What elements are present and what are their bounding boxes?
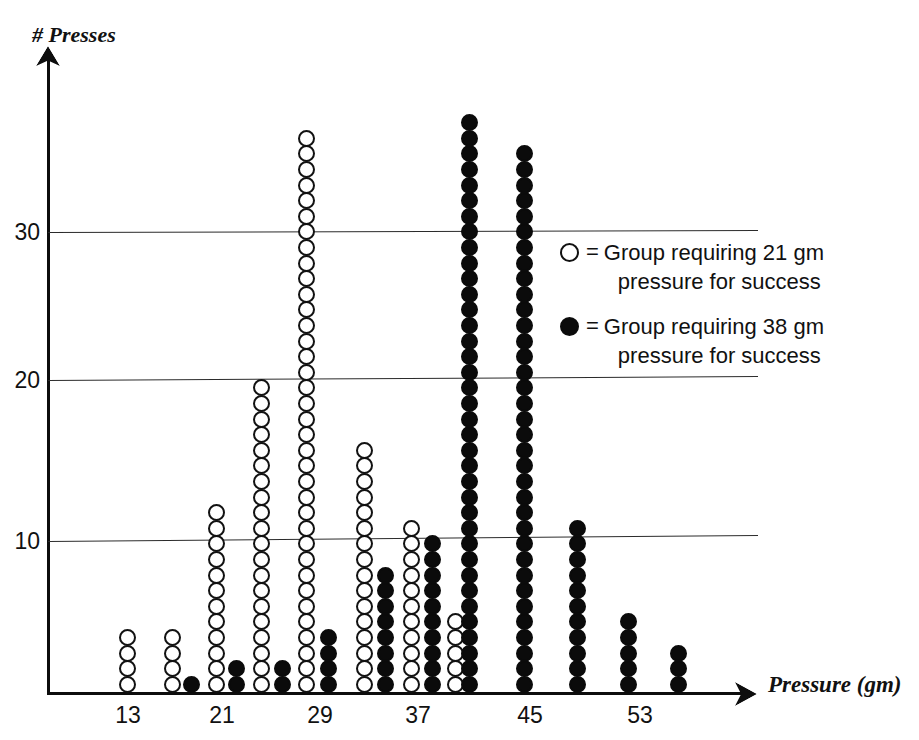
legend-entry-filled-group: = Group requiring 38 gm pressure for suc… <box>560 312 890 370</box>
filled-circle-marker <box>461 239 478 256</box>
open-circle-marker <box>298 457 315 474</box>
open-circle-marker <box>356 473 373 490</box>
filled-circle-marker <box>461 114 478 131</box>
dot-plot-figure: # Presses Pressure (gm) 302010 132129374… <box>0 0 919 740</box>
filled-circle-marker <box>424 535 441 552</box>
filled-circle-marker <box>516 660 533 677</box>
open-circle-marker <box>298 364 315 381</box>
open-circle-marker <box>298 317 315 334</box>
open-circle-marker <box>403 676 420 693</box>
filled-circle-marker <box>461 426 478 443</box>
legend-label-filled-line1: Group requiring 38 gm <box>604 314 824 339</box>
filled-circle-marker <box>516 645 533 662</box>
filled-circle-marker <box>461 255 478 272</box>
open-circle-marker <box>356 660 373 677</box>
open-circle-marker <box>403 551 420 568</box>
filled-circle-marker <box>569 660 586 677</box>
open-circle-marker <box>403 567 420 584</box>
filled-circle-marker <box>461 270 478 287</box>
open-circle-marker <box>298 223 315 240</box>
legend-label-filled-line2: pressure for success <box>604 341 824 370</box>
dot-column <box>320 0 337 692</box>
filled-circle-marker <box>424 613 441 630</box>
open-circle-marker <box>356 645 373 662</box>
open-circle-marker <box>298 613 315 630</box>
filled-circle-marker <box>461 192 478 209</box>
filled-circle-marker <box>424 598 441 615</box>
filled-circle-marker <box>516 629 533 646</box>
open-circle-marker <box>253 442 270 459</box>
open-circle-marker <box>356 520 373 537</box>
filled-circle-marker <box>424 660 441 677</box>
dot-column <box>461 0 478 692</box>
filled-circle-marker <box>274 660 291 677</box>
dot-column <box>228 0 245 692</box>
filled-circle-marker <box>620 660 637 677</box>
open-circle-marker <box>208 535 225 552</box>
filled-circle-marker <box>516 613 533 630</box>
open-circle-marker <box>403 535 420 552</box>
open-circle-marker <box>298 426 315 443</box>
filled-circle-marker <box>461 598 478 615</box>
filled-circle-marker <box>516 317 533 334</box>
open-circle-marker <box>253 520 270 537</box>
filled-circle-marker <box>670 660 687 677</box>
open-circle-marker <box>253 582 270 599</box>
open-circle-marker <box>253 613 270 630</box>
filled-circle-marker <box>516 676 533 693</box>
filled-circle-marker <box>461 457 478 474</box>
dot-column <box>274 0 291 692</box>
open-circle-marker <box>356 442 373 459</box>
filled-circle-marker <box>569 629 586 646</box>
dot-column <box>377 0 394 692</box>
filled-circle-marker <box>516 270 533 287</box>
open-circle-marker <box>253 567 270 584</box>
filled-circle-marker <box>620 676 637 693</box>
filled-circle-icon <box>560 317 579 336</box>
filled-circle-marker <box>320 676 337 693</box>
filled-circle-marker <box>516 192 533 209</box>
open-circle-marker <box>298 598 315 615</box>
legend-equals-sign: = <box>586 239 599 265</box>
open-circle-marker <box>298 520 315 537</box>
open-circle-marker <box>298 567 315 584</box>
open-circle-marker <box>253 411 270 428</box>
filled-circle-marker <box>320 645 337 662</box>
filled-circle-marker <box>620 613 637 630</box>
filled-circle-marker <box>461 520 478 537</box>
filled-circle-marker <box>516 551 533 568</box>
legend-label-filled-group: Group requiring 38 gm pressure for succe… <box>604 312 824 370</box>
open-circle-marker <box>208 582 225 599</box>
filled-circle-marker <box>461 379 478 396</box>
filled-circle-marker <box>670 676 687 693</box>
open-circle-marker <box>253 426 270 443</box>
dot-column <box>208 0 225 692</box>
open-circle-marker <box>208 629 225 646</box>
open-circle-marker <box>298 535 315 552</box>
filled-circle-marker <box>516 333 533 350</box>
legend-label-open-group: Group requiring 21 gm pressure for succe… <box>604 238 824 296</box>
filled-circle-marker <box>228 676 245 693</box>
open-circle-marker <box>356 504 373 521</box>
filled-circle-marker <box>461 208 478 225</box>
open-circle-icon <box>560 243 579 262</box>
filled-circle-marker <box>516 504 533 521</box>
filled-circle-marker <box>516 442 533 459</box>
open-circle-marker <box>298 192 315 209</box>
open-circle-marker <box>356 582 373 599</box>
open-circle-marker <box>356 535 373 552</box>
filled-circle-marker <box>461 348 478 365</box>
filled-circle-marker <box>516 411 533 428</box>
open-circle-marker <box>208 645 225 662</box>
filled-circle-marker <box>377 645 394 662</box>
dot-column <box>164 0 181 692</box>
filled-circle-marker <box>569 598 586 615</box>
open-circle-marker <box>208 676 225 693</box>
filled-circle-marker <box>461 535 478 552</box>
filled-circle-marker <box>569 535 586 552</box>
legend-entry-open-group: = Group requiring 21 gm pressure for suc… <box>560 238 890 296</box>
filled-circle-marker <box>377 629 394 646</box>
filled-circle-marker <box>461 364 478 381</box>
filled-circle-marker <box>620 629 637 646</box>
filled-circle-marker <box>516 535 533 552</box>
